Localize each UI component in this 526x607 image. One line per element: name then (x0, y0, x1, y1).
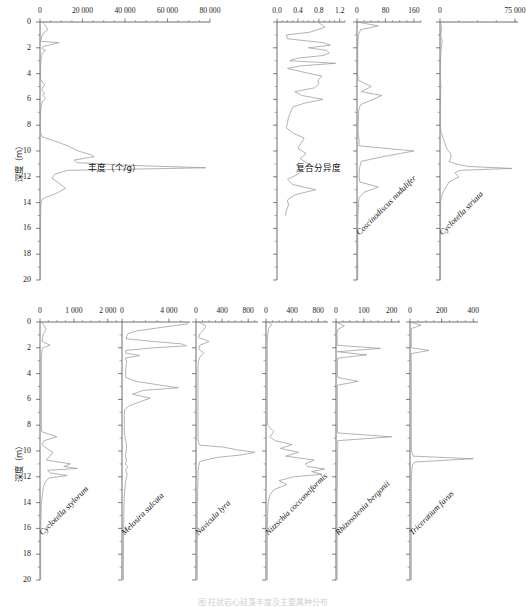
depth-tick-label-9: 18 (3, 249, 31, 258)
xtick-label-melosira-sulcata-0: 0 (98, 306, 146, 315)
panel-row-top: 020 00040 00060 00080 000丰度（个/g）02468101… (0, 0, 526, 295)
plot-svg-triceratium-favus (410, 300, 492, 592)
depth-tick-label-3: 6 (3, 94, 31, 103)
plot-panel-abundance: 020 00040 00060 00080 000丰度（个/g） (40, 0, 210, 290)
depth-tick-label-10: 20 (3, 275, 31, 284)
xtick-label-cyclotella-striata-1: 75 000 (491, 6, 526, 15)
data-curve-composite-diversity (285, 22, 335, 216)
plot-svg-composite-diversity (277, 0, 359, 292)
depth-tick-label-0: 0 (3, 17, 31, 26)
data-curve-coscinodiscus-nodulifer (357, 22, 414, 280)
depth-tick-label-8: 16 (3, 223, 31, 232)
plot-panel-cyclotella-striata: 075 000Cyclotella striata (440, 0, 518, 290)
panel-title-abundance: 丰度（个/g） (88, 161, 141, 173)
xtick-label-abundance-1: 20 000 (59, 6, 107, 15)
plot-svg-melosira-sulcata (122, 300, 204, 592)
figure-caption: 图 柱状岩心硅藻丰度及主要属种分布 (0, 596, 526, 607)
depth-tick-label-3: 6 (3, 394, 31, 403)
plot-svg-cyclotella-striata (440, 0, 526, 292)
plot-panel-navicula-lyra: 0400800Navicula lyra (196, 300, 258, 590)
depth-axis-title: 深度（m） (12, 442, 24, 482)
depth-tick-label-8: 16 (3, 523, 31, 532)
depth-tick-label-4: 8 (3, 420, 31, 429)
plot-panel-coscinodiscus-nodulifer: 080160Coscinodiscus nodulifer (357, 0, 421, 290)
data-curve-cyclotella-stylorum (41, 322, 78, 580)
depth-tick-label-9: 18 (3, 549, 31, 558)
panel-row-bottom: 01 0002 000Cyclotella stylorum0246810121… (0, 300, 526, 595)
depth-tick-label-10: 20 (3, 575, 31, 584)
plot-svg-coscinodiscus-nodulifer (357, 0, 435, 292)
depth-tick-label-1: 2 (3, 343, 31, 352)
plot-panel-nitzschia-cocconeiformis: 0400800Nitzschia cocconeiformis (266, 300, 328, 590)
data-curve-nitzschia-cocconeiformis (267, 322, 324, 580)
depth-tick-label-2: 4 (3, 369, 31, 378)
depth-tick-label-7: 14 (3, 498, 31, 507)
depth-tick-label-7: 14 (3, 198, 31, 207)
xtick-label-abundance-2: 40 000 (101, 6, 149, 15)
xtick-label-abundance-4: 80 000 (186, 6, 234, 15)
xtick-label-triceratium-favus-2: 400 (449, 306, 497, 315)
panel-title-composite-diversity: 复合分异度 (296, 161, 341, 173)
xtick-label-cyclotella-striata-0: 0 (416, 6, 464, 15)
depth-tick-label-1: 2 (3, 43, 31, 52)
depth-axis-title: 深度（m） (12, 142, 24, 182)
plot-svg-rhizosolenia-bergonii (336, 300, 414, 592)
plot-panel-composite-diversity: 0.00.40.81.2复合分异度 (277, 0, 345, 290)
data-curve-triceratium-favus (410, 322, 473, 580)
data-curve-navicula-lyra (197, 322, 254, 580)
data-curve-melosira-sulcata (123, 322, 187, 580)
plot-panel-triceratium-favus: 0200400Triceratium favus (410, 300, 478, 590)
plot-panel-cyclotella-stylorum: 01 0002 000Cyclotella stylorum (40, 300, 118, 590)
depth-tick-label-0: 0 (3, 317, 31, 326)
plot-svg-cyclotella-stylorum (40, 300, 132, 592)
data-curve-cyclotella-striata (440, 22, 512, 280)
xtick-label-abundance-0: 0 (16, 6, 64, 15)
depth-tick-label-4: 8 (3, 120, 31, 129)
data-curve-rhizosolenia-bergonii (336, 322, 392, 580)
depth-tick-label-2: 4 (3, 69, 31, 78)
plot-svg-abundance (40, 0, 224, 292)
plot-svg-nitzschia-cocconeiformis (266, 300, 342, 592)
figure-root: 020 00040 00060 00080 000丰度（个/g）02468101… (0, 0, 526, 607)
plot-panel-rhizosolenia-bergonii: 0100200Rhizosolenia bergonii (336, 300, 400, 590)
xtick-label-abundance-3: 60 000 (144, 6, 192, 15)
plot-panel-melosira-sulcata: 04 000Melosira sulcata (122, 300, 190, 590)
data-curve-abundance (40, 22, 205, 280)
plot-svg-navicula-lyra (196, 300, 272, 592)
